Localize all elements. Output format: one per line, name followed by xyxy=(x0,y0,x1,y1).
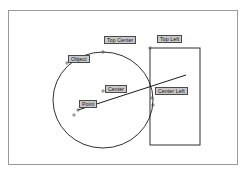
figure-canvas: Top Center Top Left Object Center Center… xyxy=(0,0,249,180)
label-top-center[interactable]: Top Center xyxy=(104,36,136,44)
label-point[interactable]: Point xyxy=(79,100,97,108)
label-top-left[interactable]: Top Left xyxy=(157,35,182,43)
label-object[interactable]: Object xyxy=(68,55,90,63)
label-center[interactable]: Center xyxy=(105,85,127,93)
label-center-left[interactable]: Center Left xyxy=(155,87,188,95)
